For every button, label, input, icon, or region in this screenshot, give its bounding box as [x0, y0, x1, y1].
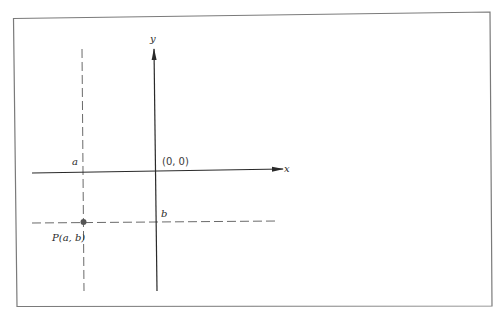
- point-p: [81, 219, 87, 225]
- x-axis-label: x: [284, 163, 290, 174]
- coordinate-plane-diagram: y x (0, 0) a b P(a, b): [0, 0, 500, 316]
- tick-label-a: a: [72, 156, 78, 167]
- y-axis-label: y: [149, 33, 156, 44]
- point-p-label: P(a, b): [51, 232, 85, 243]
- tick-label-b: b: [161, 208, 167, 219]
- y-axis: [154, 49, 157, 291]
- origin-label: (0, 0): [162, 156, 189, 167]
- figure-frame: [14, 12, 493, 307]
- dashed-line-x-equals-a: [82, 49, 84, 291]
- dashed-line-y-equals-b: [32, 221, 279, 223]
- x-axis: [32, 169, 283, 173]
